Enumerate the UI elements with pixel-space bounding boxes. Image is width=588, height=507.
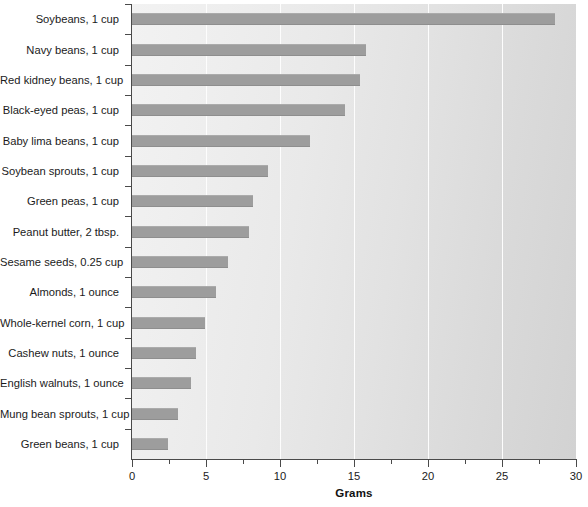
bar [132,13,555,25]
bar [132,74,360,86]
category-axis-label: Almonds, 1 ounce [0,286,119,298]
category-axis-label: Sesame seeds, 0.25 cup [0,256,119,268]
x-axis-minor-tick [465,460,466,464]
gridline [354,4,355,459]
x-axis-tick [280,460,281,467]
x-axis-tick-label: 5 [186,470,226,482]
y-axis-tick [125,247,131,248]
bar [132,317,205,329]
x-axis-tick [576,460,577,467]
x-axis-tick-label: 20 [408,470,448,482]
bar [132,286,216,298]
bar [132,256,228,268]
x-axis-title: Grams [132,487,576,499]
gridline [502,4,503,459]
category-axis-label: Green beans, 1 cup [0,438,119,450]
category-axis-label: Red kidney beans, 1 cup [0,74,119,86]
x-axis-tick [132,460,133,467]
gridline [280,4,281,459]
bar [132,438,168,450]
bar [132,44,366,56]
y-axis-tick [125,65,131,66]
bar [132,226,249,238]
y-axis-tick [125,34,131,35]
x-axis-tick-label: 25 [482,470,522,482]
category-axis-label: Mung bean sprouts, 1 cup [0,408,119,420]
category-axis-label: Green peas, 1 cup [0,195,119,207]
bar [132,408,178,420]
x-axis-minor-tick [539,460,540,464]
y-axis-tick [125,338,131,339]
category-axis-label: Cashew nuts, 1 ounce [0,347,119,359]
bar [132,165,268,177]
category-axis-label: Whole-kernel corn, 1 cup [0,317,119,329]
x-axis-tick-label: 10 [260,470,300,482]
x-axis-tick-label: 15 [334,470,374,482]
bar-chart: Soybeans, 1 cupNavy beans, 1 cupRed kidn… [0,0,588,507]
category-axis-label: English walnuts, 1 ounce [0,377,119,389]
x-axis-tick [502,460,503,467]
y-axis-tick [125,368,131,369]
y-axis-tick [125,277,131,278]
y-axis-tick [125,4,131,5]
x-axis-minor-tick [169,460,170,464]
x-axis-tick [206,460,207,467]
category-axis-label: Baby lima beans, 1 cup [0,135,119,147]
x-axis-tick [354,460,355,467]
category-axis-label: Soybeans, 1 cup [0,13,119,25]
x-axis-minor-tick [317,460,318,464]
x-axis-tick-label: 30 [556,470,588,482]
y-axis-tick [125,398,131,399]
category-axis-label: Navy beans, 1 cup [0,44,119,56]
y-axis-line [131,4,132,460]
plot-area [132,4,576,459]
bar [132,347,196,359]
category-axis-label: Soybean sprouts, 1 cup [0,165,119,177]
y-axis-tick [125,186,131,187]
y-axis-tick [125,95,131,96]
y-axis-tick [125,307,131,308]
bar [132,195,253,207]
y-axis-tick [125,125,131,126]
bar [132,377,191,389]
category-axis-labels: Soybeans, 1 cupNavy beans, 1 cupRed kidn… [0,4,126,459]
x-axis-minor-tick [391,460,392,464]
y-axis-tick [125,429,131,430]
category-axis-label: Peanut butter, 2 tbsp. [0,226,119,238]
category-axis-label: Black-eyed peas, 1 cup [0,104,119,116]
bar [132,135,310,147]
y-axis-tick [125,156,131,157]
bar [132,104,345,116]
x-axis-tick-label: 0 [112,470,152,482]
x-axis-minor-tick [243,460,244,464]
gridline [428,4,429,459]
x-axis-tick [428,460,429,467]
y-axis-tick [125,216,131,217]
